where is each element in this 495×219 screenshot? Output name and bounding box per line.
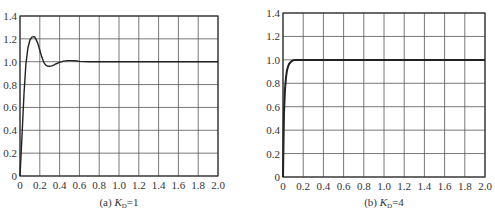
chart-caption: (b) KD=4: [364, 196, 404, 210]
y-tick-label: 1.0: [3, 56, 17, 68]
x-tick-label: 1.0: [377, 180, 391, 192]
y-tick-label: 0.6: [266, 101, 280, 113]
y-tick-label: 1.2: [3, 33, 17, 45]
step-response-figure: 00.20.40.60.81.01.21.41.61.82.000.20.40.…: [0, 0, 495, 219]
chart-b: 00.20.40.60.81.01.21.41.61.82.000.20.40.…: [266, 7, 492, 210]
x-tick-label: 0.2: [296, 180, 310, 192]
grid: [20, 16, 218, 176]
x-tick-label: 0: [17, 179, 23, 191]
x-tick-label: 1.8: [191, 179, 205, 191]
y-tick-label: 0.2: [266, 148, 280, 160]
x-tick-label: 0.4: [53, 179, 67, 191]
x-tick-label: 0.8: [357, 180, 371, 192]
y-tick-label: 0.8: [266, 77, 280, 89]
y-tick-label: 1.2: [266, 30, 280, 42]
y-tick-label: 0.2: [3, 147, 17, 159]
y-tick-label: 1.0: [266, 54, 280, 66]
x-tick-label: 1.2: [132, 179, 146, 191]
x-tick-label: 2.0: [478, 180, 492, 192]
x-tick-label: 0.8: [92, 179, 106, 191]
x-tick-label: 0.2: [33, 179, 47, 191]
x-tick-label: 1.2: [397, 180, 411, 192]
x-tick-label: 1.8: [458, 180, 472, 192]
x-tick-label: 1.4: [152, 179, 166, 191]
y-tick-label: 1.4: [3, 10, 17, 22]
x-tick-label: 1.4: [418, 180, 432, 192]
y-tick-label: 0: [275, 171, 281, 183]
x-tick-label: 1.6: [438, 180, 452, 192]
x-tick-label: 1.0: [112, 179, 126, 191]
chart-a: 00.20.40.60.81.01.21.41.61.82.000.20.40.…: [3, 10, 225, 210]
x-tick-label: 0.4: [317, 180, 331, 192]
x-tick-label: 2.0: [211, 179, 225, 191]
x-tick-label: 0.6: [337, 180, 351, 192]
chart-caption: (a) KD=1: [99, 196, 138, 210]
grid: [283, 13, 485, 177]
y-tick-label: 0.4: [266, 124, 280, 136]
y-tick-label: 0.8: [3, 79, 17, 91]
y-tick-label: 1.4: [266, 7, 280, 19]
x-tick-label: 0: [280, 180, 286, 192]
y-tick-label: 0.4: [3, 124, 17, 136]
y-tick-label: 0: [12, 170, 18, 182]
x-tick-label: 1.6: [172, 179, 186, 191]
y-tick-label: 0.6: [3, 101, 17, 113]
x-tick-label: 0.6: [73, 179, 87, 191]
